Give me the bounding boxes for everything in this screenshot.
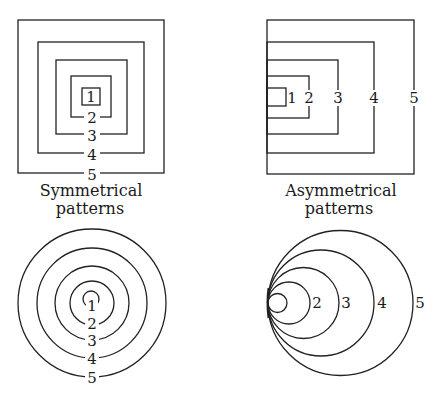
symmetrical-circles: 1 2 3 4 5 <box>18 229 166 387</box>
asym-square-label-3: 3 <box>333 89 343 107</box>
asym-circle-2 <box>268 282 310 324</box>
asym-circle-label-4: 4 <box>377 294 387 312</box>
symmetrical-squares: 1 2 3 4 5 <box>18 20 164 184</box>
sym-square-label-3: 3 <box>87 127 97 145</box>
sym-square-label-4: 4 <box>87 146 97 164</box>
asym-square-3 <box>267 60 338 134</box>
symmetrical-caption-line2: patterns <box>56 199 124 218</box>
asymmetrical-caption: Asymmetrical patterns <box>284 181 396 218</box>
asym-circle-label-2: 2 <box>312 294 322 312</box>
asymmetrical-circles: 2 3 4 5 <box>268 231 427 376</box>
asym-square-label-1: 1 <box>287 89 297 107</box>
sym-circle-label-2: 2 <box>87 315 97 333</box>
symmetrical-caption-line1: Symmetrical <box>40 181 143 200</box>
symmetrical-caption: Symmetrical patterns <box>40 181 143 218</box>
asym-circle-label-3: 3 <box>341 294 351 312</box>
asym-square-4 <box>267 42 374 153</box>
asym-square-label-4: 4 <box>369 89 379 107</box>
asymmetrical-caption-line1: Asymmetrical <box>284 181 396 200</box>
sym-circle-label-3: 3 <box>87 332 97 350</box>
asym-square-1 <box>267 88 286 106</box>
asymmetrical-caption-line2: patterns <box>305 199 373 218</box>
asym-circle-3 <box>268 268 339 339</box>
asym-circle-1 <box>268 294 287 313</box>
sym-square-label-2: 2 <box>87 109 97 127</box>
sym-circle-label-1: 1 <box>87 297 97 315</box>
asym-square-label-5: 5 <box>409 89 419 107</box>
sym-circle-label-4: 4 <box>87 350 97 368</box>
asym-circle-label-5: 5 <box>415 294 425 312</box>
asymmetrical-squares: 1 2 3 4 5 <box>267 20 420 174</box>
asym-tangent-point <box>268 288 269 318</box>
sym-circle-label-5: 5 <box>87 369 97 387</box>
sym-square-label-1: 1 <box>86 88 96 106</box>
asym-square-label-2: 2 <box>304 89 314 107</box>
pattern-diagram: 1 2 3 4 5 1 2 3 4 5 Symmetrical patterns… <box>0 0 437 399</box>
